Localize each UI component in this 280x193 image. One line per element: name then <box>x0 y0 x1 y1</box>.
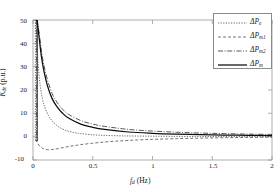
legend-label: ΔPe <box>250 17 261 26</box>
legend-item-dPm: ΔPm <box>214 58 273 72</box>
legend-item-dPm2: ΔPm2 <box>214 44 273 58</box>
legend-label: ΔPm1 <box>250 31 266 40</box>
legend: ΔPe ΔPm1 ΔPm2 ΔPm <box>213 13 272 69</box>
legend-item-dPm1: ΔPm1 <box>214 30 273 44</box>
legend-label: ΔPm <box>250 59 263 68</box>
legend-label: ΔPm2 <box>250 45 266 54</box>
legend-item-dPe: ΔPe <box>214 16 273 30</box>
figure-container: Kde (p.u.) fd (Hz) 50 40 30 20 10 0 -10 … <box>0 0 280 193</box>
series-dPm1 <box>35 137 272 150</box>
